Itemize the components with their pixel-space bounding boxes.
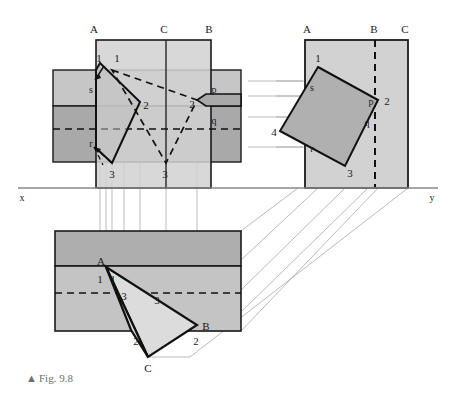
plan-vertex-1b: 1 bbox=[110, 273, 116, 285]
front-vertex-3a: 3 bbox=[109, 168, 115, 180]
front-vertex-1a: 1 bbox=[96, 52, 102, 64]
side-label-A: A bbox=[303, 23, 311, 35]
side-vertex-2: 2 bbox=[384, 95, 390, 107]
plan-band-upper bbox=[55, 231, 241, 266]
side-label-C: C bbox=[401, 23, 408, 35]
front-label-C: C bbox=[160, 23, 167, 35]
plan-vertex-2a: 2 bbox=[133, 335, 139, 347]
side-point-p: p bbox=[369, 96, 374, 107]
front-point-p: p bbox=[212, 84, 217, 95]
front-vertex-2a: 2 bbox=[143, 99, 149, 111]
figure-9-8: A C B 1 1 2 2 3 3 s p q r A B C 1 2 3 4 … bbox=[0, 0, 456, 399]
descriptive-geometry-drawing: A C B 1 1 2 2 3 3 s p q r A B C 1 2 3 4 … bbox=[0, 0, 456, 399]
axis-label-x: x bbox=[20, 192, 25, 203]
axis-label-y: y bbox=[430, 192, 435, 203]
caption-label: Fig. 9.8 bbox=[39, 372, 73, 384]
front-vertex-2b: 2 bbox=[189, 98, 195, 110]
figure-caption-group: ▲ Fig. 9.8 bbox=[26, 372, 73, 384]
plan-vertex-2b: 2 bbox=[193, 335, 199, 347]
front-label-A: A bbox=[90, 23, 98, 35]
side-vertex-1: 1 bbox=[315, 52, 321, 64]
front-vertex-1b: 1 bbox=[114, 52, 120, 64]
side-label-B: B bbox=[370, 23, 377, 35]
plan-corner-B: B bbox=[202, 320, 209, 332]
front-vertex-3b: 3 bbox=[162, 168, 168, 180]
front-notch-shape bbox=[197, 94, 241, 106]
plan-corner-A: A bbox=[97, 255, 105, 267]
front-label-B: B bbox=[205, 23, 212, 35]
plan-vertex-3a: 3 bbox=[121, 290, 127, 302]
plan-vertex-3b: 3 bbox=[154, 294, 160, 306]
side-vertex-3: 3 bbox=[347, 167, 353, 179]
caption-triangle-marker: ▲ bbox=[26, 372, 37, 384]
front-point-s: s bbox=[89, 84, 93, 95]
front-point-q: q bbox=[212, 115, 217, 126]
plan-corner-C: C bbox=[144, 362, 151, 374]
side-point-s: s bbox=[310, 82, 314, 93]
side-vertex-4: 4 bbox=[271, 126, 277, 138]
side-point-q: q bbox=[365, 117, 370, 128]
plan-vertex-1a: 1 bbox=[97, 273, 103, 285]
